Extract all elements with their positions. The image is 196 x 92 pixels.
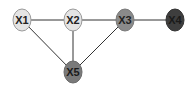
node-x5: X5 (64, 61, 82, 83)
node-x3: X3 (116, 9, 134, 31)
edge-x1-x5 (22, 20, 73, 72)
node-label-x5: X5 (66, 66, 79, 78)
graph-diagram: X1 X2 X3 X4 X5 (0, 0, 196, 92)
node-x2: X2 (64, 9, 82, 31)
node-label-x1: X1 (15, 14, 28, 26)
node-label-x2: X2 (66, 14, 79, 26)
node-label-x4: X4 (168, 14, 182, 26)
node-x1: X1 (13, 9, 31, 31)
edge-x3-x5 (73, 20, 125, 72)
node-label-x3: X3 (118, 14, 131, 26)
node-x4: X4 (166, 9, 184, 31)
edges (22, 20, 175, 72)
